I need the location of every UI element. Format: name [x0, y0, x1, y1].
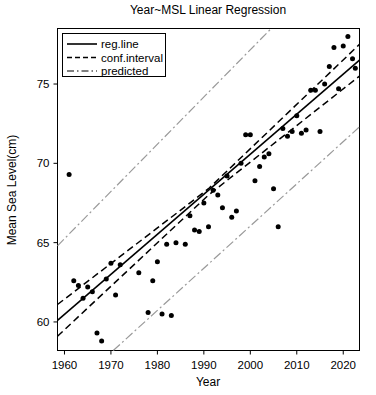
data-point [215, 193, 220, 198]
data-point [104, 277, 109, 282]
data-point [243, 132, 248, 137]
data-point [136, 270, 141, 275]
x-tick-label: 1990 [191, 359, 217, 371]
regression-scatter-chart: Year~MSL Linear Regression 1960197019801… [0, 0, 376, 395]
data-point [322, 82, 327, 87]
data-point [99, 338, 104, 343]
data-point [118, 262, 123, 267]
chart-title: Year~MSL Linear Regression [130, 3, 286, 17]
y-tick-label: 75 [37, 78, 50, 90]
x-tick-label: 2020 [330, 359, 356, 371]
chart-container: Year~MSL Linear Regression 1960197019801… [0, 0, 376, 395]
data-point [290, 129, 295, 134]
data-point [206, 224, 211, 229]
data-point [201, 200, 206, 205]
data-point [81, 296, 86, 301]
data-point [299, 131, 304, 136]
x-tick-label: 2000 [238, 359, 264, 371]
data-points [67, 34, 358, 344]
data-point [304, 128, 309, 133]
data-point [67, 172, 72, 177]
data-point [336, 86, 341, 91]
data-point [257, 164, 262, 169]
data-point [150, 278, 155, 283]
conf.interval.upper-path [58, 44, 360, 304]
x-tick-label: 2010 [284, 359, 310, 371]
reg.line-path [58, 60, 360, 320]
data-point [94, 331, 99, 336]
regression-line [58, 60, 360, 320]
legend-label-predicted: predicted [101, 65, 148, 77]
legend-label-reg-line: reg.line [101, 38, 139, 50]
data-point [192, 227, 197, 232]
x-axis-ticks: 1960197019801990200020102020 [52, 351, 356, 371]
x-tick-label: 1970 [98, 359, 124, 371]
legend-label-conf-interval: conf.interval [101, 52, 163, 64]
data-point [294, 113, 299, 118]
data-point [108, 261, 113, 266]
y-axis-title: Mean Sea Level(cm) [5, 135, 19, 246]
data-point [248, 132, 253, 137]
data-point [71, 278, 76, 283]
data-point [225, 174, 230, 179]
data-point [313, 88, 318, 93]
data-point [252, 178, 257, 183]
data-point [353, 66, 358, 71]
data-point [327, 64, 332, 69]
data-point [155, 259, 160, 264]
x-tick-label: 1980 [145, 359, 171, 371]
conf.interval.lower-path [58, 76, 360, 336]
data-point [113, 292, 118, 297]
data-point [239, 161, 244, 166]
y-axis-ticks: 60657075 [37, 78, 58, 328]
data-point [90, 289, 95, 294]
data-point [229, 215, 234, 220]
y-tick-label: 60 [37, 316, 50, 328]
data-point [331, 45, 336, 50]
data-point [169, 313, 174, 318]
data-point [350, 56, 355, 61]
data-point [85, 285, 90, 290]
data-point [341, 43, 346, 48]
data-point [183, 242, 188, 247]
data-point [146, 310, 151, 315]
data-point [234, 208, 239, 213]
data-point [318, 129, 323, 134]
data-point [197, 229, 202, 234]
data-point [271, 186, 276, 191]
x-tick-label: 1960 [52, 359, 78, 371]
data-point [276, 224, 281, 229]
data-point [262, 154, 267, 159]
data-point [160, 312, 165, 317]
data-point [280, 126, 285, 131]
data-point [173, 240, 178, 245]
y-tick-label: 70 [37, 157, 50, 169]
data-point [187, 213, 192, 218]
data-point [211, 188, 216, 193]
data-point [308, 88, 313, 93]
x-axis-title: Year [196, 375, 220, 389]
data-point [345, 34, 350, 39]
y-tick-label: 65 [37, 237, 50, 249]
data-point [76, 283, 81, 288]
legend: reg.lineconf.intervalpredicted [63, 34, 166, 78]
data-point [220, 205, 225, 210]
data-point [285, 134, 290, 139]
data-point [164, 242, 169, 247]
predicted.lower-path [113, 127, 359, 351]
data-point [266, 151, 271, 156]
